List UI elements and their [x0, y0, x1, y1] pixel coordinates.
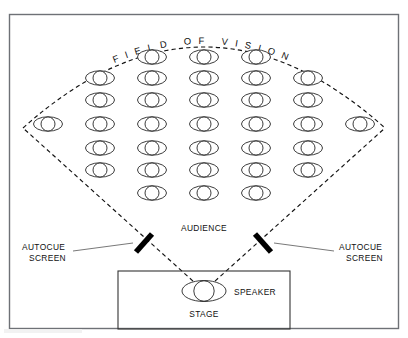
person-icon: [34, 117, 63, 131]
person-icon: [138, 186, 167, 200]
audience-row: [138, 50, 271, 64]
autocue-screen-left-bar: [136, 234, 152, 252]
audience-row: [86, 93, 323, 107]
person-icon: [190, 141, 219, 155]
audience-row: [86, 71, 323, 85]
person-icon: [294, 93, 323, 107]
person-icon: [294, 71, 323, 85]
person-icon: [346, 117, 375, 131]
audience-row: [138, 186, 271, 200]
person-icon: [242, 186, 271, 200]
person-icon: [86, 71, 115, 85]
person-icon: [138, 50, 167, 64]
autocue-right-leader-line: [274, 243, 334, 251]
audience-group: [34, 50, 375, 200]
person-icon: [86, 141, 115, 155]
autocue-screen-left-label: AUTOCUE SCREEN: [22, 242, 66, 263]
speaker-label: SPEAKER: [234, 287, 276, 297]
person-icon: [190, 50, 219, 64]
person-icon: [242, 163, 271, 177]
autocue-right-label-line1: AUTOCUE: [339, 242, 382, 252]
audience-row: [86, 141, 323, 155]
person-icon: [190, 71, 219, 85]
person-icon: [242, 141, 271, 155]
person-icon: [294, 117, 323, 131]
person-icon: [242, 117, 271, 131]
person-icon: [86, 117, 115, 131]
field-of-vision-ray-right: [204, 128, 385, 291]
person-icon: [138, 117, 167, 131]
person-icon: [138, 141, 167, 155]
autocue-screen-right-label: AUTOCUE SCREEN: [339, 242, 383, 263]
person-icon: [294, 141, 323, 155]
audience-label: AUDIENCE: [181, 223, 227, 233]
person-icon: [242, 71, 271, 85]
autocue-left-leader-line: [73, 243, 133, 251]
person-icon: [190, 163, 219, 177]
person-icon: [138, 71, 167, 85]
person-icon: [138, 93, 167, 107]
person-icon: [190, 117, 219, 131]
person-icon: [242, 50, 271, 64]
speaker-person-icon: [182, 281, 226, 302]
field-of-vision-diagram: FIELD OF VISION: [0, 0, 408, 338]
autocue-right-label-line2: SCREEN: [346, 253, 383, 263]
diagram-canvas: FIELD OF VISION: [0, 0, 408, 338]
person-icon: [190, 186, 219, 200]
audience-row: [34, 117, 375, 131]
autocue-left-label-line2: SCREEN: [29, 253, 66, 263]
scan-artifact: [4, 329, 82, 333]
person-icon: [86, 163, 115, 177]
audience-row: [86, 163, 323, 177]
autocue-screen-right-bar: [255, 234, 271, 252]
person-icon: [138, 163, 167, 177]
autocue-left-label-line1: AUTOCUE: [22, 242, 65, 252]
field-of-vision-ray-left: [23, 128, 204, 291]
person-icon: [190, 93, 219, 107]
person-icon: [294, 163, 323, 177]
person-icon: [242, 93, 271, 107]
stage-label: STAGE: [189, 309, 219, 319]
person-icon: [86, 93, 115, 107]
